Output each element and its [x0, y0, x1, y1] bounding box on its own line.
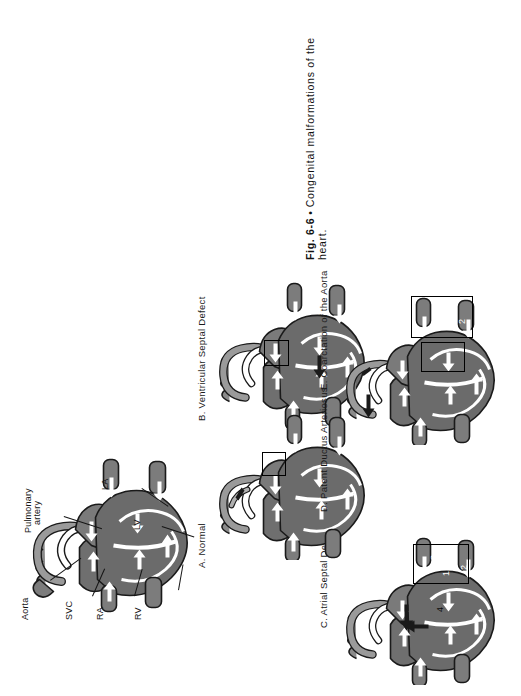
inset-highlight-box-coarctation-inner: [421, 342, 465, 372]
inset-highlight-box-vsd: [264, 340, 289, 366]
anatomy-label-lv: LV: [132, 519, 142, 530]
figure-caption-line-2: heart.: [317, 229, 328, 260]
caption-bullet-icon: •: [304, 207, 316, 217]
callout-number-e-1: 1: [443, 325, 453, 330]
callout-number-c-4: 4: [435, 607, 445, 612]
figure-number: Fig. 6-6: [304, 218, 316, 260]
callout-number-c-2: 2: [459, 565, 469, 570]
callout-number-c-1: 1: [441, 571, 451, 576]
panel-e-coarctation-of-the-aorta: 1 2: [325, 280, 505, 445]
caption-text-line-1: Congenital malformations of the: [304, 37, 316, 207]
panel-a-normal: [30, 430, 205, 630]
callout-number-c-3: 3: [429, 555, 439, 560]
anatomy-label-pulmonary-artery: Pulmonary artery: [24, 488, 43, 533]
anatomy-label-la: LA: [100, 479, 110, 490]
callout-number-e-2: 2: [457, 319, 467, 324]
figure-caption-line-1: Fig. 6-6•Congenital malformations of the: [305, 37, 316, 260]
inset-highlight-box-coarctation-outer: [411, 296, 473, 338]
anatomy-label-pulmonary-artery-line2: artery: [33, 488, 42, 533]
panel-label-e: E. Coarctation of the Aorta: [318, 270, 329, 390]
figure-caption: Fig. 6-6•Congenital malformations of the…: [291, 18, 521, 58]
heart-diagram-normal: [30, 430, 205, 630]
anatomy-label-aorta: Aorta: [20, 597, 30, 620]
inset-highlight-box-pda: [262, 452, 286, 476]
anatomy-label-rv: RV: [133, 607, 143, 620]
anatomy-label-ra: RA: [95, 607, 105, 620]
anatomy-label-svc: SVC: [64, 601, 74, 620]
